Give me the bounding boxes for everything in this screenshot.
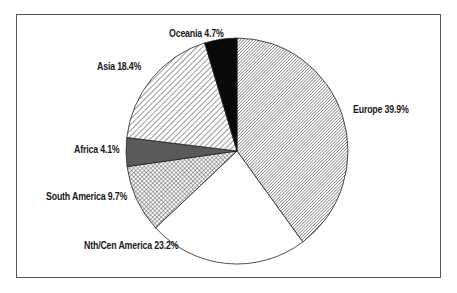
label-europe: Europe 39.9% xyxy=(353,104,409,115)
label-nth-cen-america: Nth/Cen America 23.2% xyxy=(84,240,178,251)
label-asia: Asia 18.4% xyxy=(97,61,141,72)
label-africa: Africa 4.1% xyxy=(74,144,120,155)
pie-chart xyxy=(0,0,457,293)
pie-slices xyxy=(126,38,348,264)
label-oceania: Oceania 4.7% xyxy=(169,28,224,39)
label-south-america: South America 9.7% xyxy=(46,191,127,202)
